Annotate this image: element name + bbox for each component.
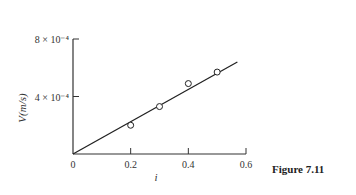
data-point-circle [214,69,220,75]
data-point-circle [157,104,163,110]
y-tick-label: 4 × 10⁻⁴ [35,92,70,103]
data-points [128,69,221,128]
figure-caption: Figure 7.11 [272,163,324,175]
x-axis-label: i [154,171,157,183]
y-axis-label: V(m/s) [16,93,29,123]
data-point-circle [185,81,191,87]
data-point-circle [128,122,134,128]
y-tick-label: 8 × 10⁻⁴ [35,34,70,45]
fit-line-segment [73,62,237,154]
fit-line [73,62,237,154]
y-ticks: 4 × 10⁻⁴8 × 10⁻⁴ [35,34,79,103]
x-tick-label: 0.4 [182,159,195,170]
x-tick-label: 0 [71,159,76,170]
axes [73,39,246,154]
x-ticks: 00.20.40.6 [71,148,253,170]
x-tick-label: 0.2 [124,159,137,170]
x-tick-label: 0.6 [240,159,253,170]
